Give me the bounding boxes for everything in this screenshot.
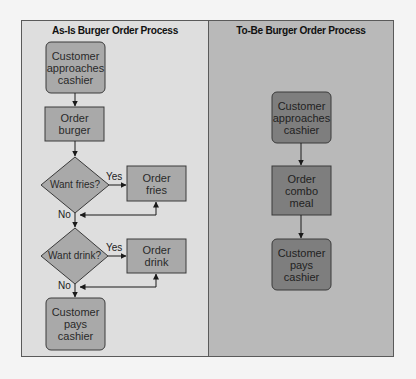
to-be-end-node — [272, 239, 331, 290]
as-is-start-node — [46, 42, 105, 93]
as-is-order-fries-node — [127, 166, 186, 201]
as-is-order-burger-node — [45, 107, 104, 141]
drink-no-label: No — [58, 280, 71, 291]
fries-yes-label: Yes — [106, 171, 122, 182]
drink-yes-label: Yes — [106, 242, 122, 253]
as-is-end-node — [46, 298, 105, 350]
as-is-want-drink-decision — [41, 228, 108, 284]
to-be-start-node — [272, 92, 331, 143]
fries-no-label: No — [58, 209, 71, 220]
as-is-order-drink-node — [127, 239, 186, 273]
as-is-want-fries-decision — [41, 157, 109, 213]
to-be-order-combo-node — [272, 166, 331, 215]
flowchart-shapes — [0, 0, 416, 379]
